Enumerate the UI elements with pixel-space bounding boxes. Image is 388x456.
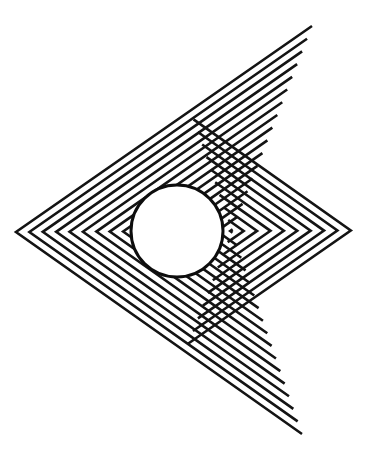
chevron-line xyxy=(230,229,232,232)
illusion-figure xyxy=(0,0,388,456)
illusion-canvas xyxy=(0,0,388,456)
